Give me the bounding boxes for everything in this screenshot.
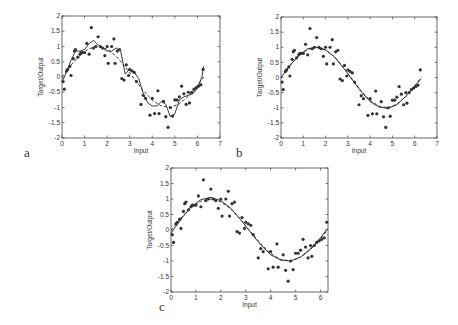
data-point (323, 236, 326, 239)
data-point (262, 250, 265, 253)
x-axis-label: Input (242, 301, 257, 309)
y-tick-label: -1.5 (158, 273, 170, 280)
x-tick-label: 1 (194, 294, 198, 301)
plot-area-frame (281, 17, 437, 138)
data-point (315, 36, 318, 39)
data-point (257, 256, 260, 259)
data-point (328, 46, 331, 49)
y-tick-label: -1.5 (268, 119, 280, 126)
y-tick-label: 0.5 (51, 58, 60, 65)
panel-label-b: b (236, 145, 243, 161)
data-point (214, 199, 217, 202)
data-point (304, 43, 307, 46)
data-point (194, 204, 197, 207)
data-point (380, 100, 383, 103)
data-point (103, 54, 106, 57)
data-point (386, 106, 389, 109)
data-point (304, 245, 307, 248)
panel-label-c: c (159, 299, 165, 315)
data-point (197, 194, 200, 197)
data-point (289, 259, 292, 262)
data-point (389, 115, 392, 118)
data-point (402, 103, 405, 106)
x-tick-label: 7 (218, 140, 222, 147)
data-point (287, 65, 290, 68)
data-point (398, 85, 401, 88)
y-axis-label: Target/Output (256, 58, 264, 98)
data-point (171, 114, 174, 117)
data-point (94, 45, 97, 48)
y-tick-label: 0 (56, 73, 60, 80)
y-tick-label: -2 (163, 288, 169, 295)
data-point (345, 74, 348, 77)
y-tick-label: 0 (165, 226, 169, 233)
y-tick-label: 2 (165, 164, 169, 171)
data-point (113, 62, 116, 65)
data-point (224, 197, 227, 200)
data-point (127, 74, 130, 77)
y-tick-label: 2 (275, 13, 279, 20)
data-point (227, 190, 230, 193)
data-point (408, 91, 411, 94)
data-point (97, 35, 100, 38)
data-point (351, 71, 354, 74)
data-point (299, 249, 302, 252)
data-point (164, 115, 167, 118)
data-point (293, 49, 296, 52)
data-point (357, 103, 360, 106)
data-point (87, 53, 90, 56)
y-tick-label: 1.5 (270, 28, 279, 35)
data-point (202, 178, 205, 181)
data-point (296, 252, 299, 255)
data-point (343, 64, 346, 67)
y-tick-label: -1 (163, 257, 169, 264)
data-point (112, 37, 115, 40)
data-point (199, 83, 202, 86)
data-point (292, 268, 295, 271)
chart-b: 01234567-2-1.5-1-0.500.511.52InputTarget… (256, 13, 439, 155)
data-point (72, 57, 75, 60)
data-point (320, 47, 323, 50)
x-tick-label: 6 (196, 140, 200, 147)
y-tick-label: -0.5 (268, 89, 280, 96)
chart-a: 01234567-2-1.5-1-0.500.511.52InputTarget… (37, 12, 222, 155)
data-point (371, 112, 374, 115)
data-point (228, 214, 231, 217)
data-point (360, 94, 363, 97)
y-tick-label: -2 (273, 134, 279, 141)
data-point (133, 71, 136, 74)
data-point (209, 187, 212, 190)
data-point (190, 91, 193, 94)
data-point (139, 103, 142, 106)
data-point (106, 45, 109, 48)
data-point (325, 62, 328, 65)
data-point (151, 97, 154, 100)
data-point (90, 26, 93, 29)
data-point (142, 94, 145, 97)
x-tick-label: 3 (244, 294, 248, 301)
data-point (148, 114, 151, 117)
x-tick-label: 4 (368, 140, 372, 147)
data-point (85, 42, 88, 45)
x-tick-label: 4 (269, 294, 273, 301)
data-point (374, 90, 377, 93)
data-point (76, 56, 79, 59)
y-tick-label: 0.5 (160, 211, 169, 218)
data-point (156, 89, 159, 92)
chart-c: 0123456-2-1.5-1-0.500.511.52InputTarget/… (146, 164, 328, 309)
data-point (68, 65, 71, 68)
x-tick-label: 2 (105, 140, 109, 147)
data-point (166, 126, 169, 129)
data-point (313, 46, 316, 49)
x-axis-label: Input (352, 147, 367, 155)
data-point (281, 80, 284, 83)
data-point (416, 83, 419, 86)
data-point (182, 92, 185, 95)
x-axis-label: Input (134, 147, 149, 155)
x-tick-label: 6 (319, 294, 323, 301)
data-point (83, 51, 86, 54)
data-point (153, 112, 156, 115)
y-tick-label: -1.5 (49, 119, 61, 126)
y-tick-label: 1.5 (51, 27, 60, 34)
data-point (366, 114, 369, 117)
